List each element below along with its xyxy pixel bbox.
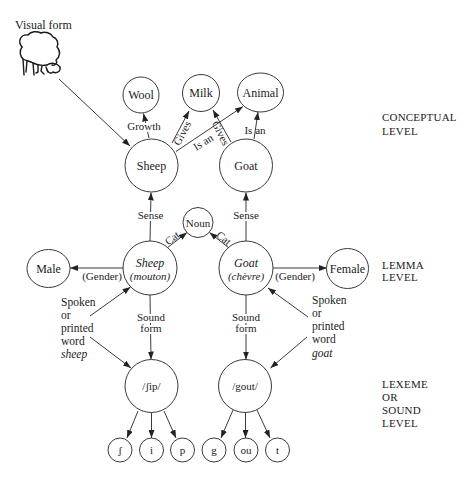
node-phoneme-t: t bbox=[266, 438, 290, 462]
word-input-sheep-line-3: printed bbox=[61, 322, 94, 335]
word-input-sheep-line-1: Spoken bbox=[61, 296, 96, 309]
node-sheep-concept-label: Sheep bbox=[137, 159, 166, 173]
level-lemma-line-1: LEMMA bbox=[382, 259, 424, 271]
lexical-network-diagram: Visual form bbox=[0, 0, 470, 481]
node-goat-lexeme-label: /gout/ bbox=[232, 380, 259, 392]
node-goat-lemma: Goat (chèvre) bbox=[219, 241, 273, 295]
node-female: Female bbox=[327, 249, 369, 289]
node-phoneme-ou-label: ou bbox=[241, 444, 253, 456]
label-growth: Growth bbox=[127, 120, 161, 132]
node-phoneme-i-label: i bbox=[150, 444, 153, 456]
node-phoneme-p: p bbox=[171, 438, 195, 462]
node-milk: Milk bbox=[183, 75, 220, 112]
word-input-sheep-line-4: word bbox=[61, 335, 85, 347]
edge-word-sheep-to-lexeme bbox=[90, 337, 131, 368]
node-sheep-lexeme-label: /ʃip/ bbox=[142, 380, 161, 392]
node-female-label: Female bbox=[330, 262, 365, 276]
level-lexeme-line-1: LEXEME bbox=[382, 378, 428, 390]
edges bbox=[59, 79, 327, 438]
node-goat-lexeme: /gout/ bbox=[219, 360, 272, 413]
node-male: Male bbox=[27, 250, 70, 288]
edge-word-sheep-to-lemma bbox=[90, 287, 131, 316]
edge-visual-to-sheep bbox=[59, 79, 130, 146]
word-input-goat-line-4: word bbox=[312, 333, 336, 345]
level-label-conceptual: CONCEPTUAL LEVEL bbox=[382, 111, 457, 137]
label-goat-is-an: Is an bbox=[244, 124, 266, 136]
level-conceptual-line-2: LEVEL bbox=[382, 125, 418, 137]
word-input-goat-line-3: printed bbox=[312, 320, 345, 333]
label-goat-form: form bbox=[235, 322, 257, 334]
node-sheep-lemma-word: Sheep bbox=[136, 256, 165, 270]
label-sheep-form: form bbox=[140, 322, 162, 334]
node-wool-label: Wool bbox=[128, 88, 154, 102]
word-input-goat-line-2: or bbox=[312, 307, 322, 319]
node-goat-lemma-word: Goat bbox=[234, 256, 259, 270]
word-input-goat-word: goat bbox=[312, 347, 333, 360]
node-sheep-lemma: Sheep (mouton) bbox=[123, 241, 177, 295]
edge-word-goat-to-lemma bbox=[268, 288, 308, 317]
visual-form-label: Visual form bbox=[15, 18, 73, 32]
label-female-gender: (Gender) bbox=[275, 270, 315, 283]
node-phoneme-sh: ʃ bbox=[108, 438, 132, 462]
label-sheep-is-an: Is an bbox=[191, 131, 216, 153]
word-input-sheep-line-2: or bbox=[61, 309, 71, 321]
level-lexeme-line-4: LEVEL bbox=[382, 417, 418, 429]
level-lemma-line-2: LEVEL bbox=[382, 271, 418, 283]
label-goat-gives: Gives bbox=[210, 119, 232, 147]
node-sheep-concept: Sheep bbox=[125, 139, 178, 192]
node-phoneme-g-label: g bbox=[211, 444, 217, 456]
label-goat-cat: Cat bbox=[214, 228, 233, 247]
edge-sheep-lexeme-phoneme-1 bbox=[127, 411, 138, 438]
label-goat-sense: Sense bbox=[233, 209, 259, 221]
node-sheep-lemma-translation: (mouton) bbox=[130, 270, 171, 283]
node-goat-lemma-translation: (chèvre) bbox=[228, 270, 265, 283]
edge-word-goat-to-lexeme bbox=[271, 337, 308, 368]
level-lexeme-line-2: OR bbox=[382, 391, 398, 403]
label-sheep-gives: Gives bbox=[171, 119, 194, 147]
node-sheep-lexeme: /ʃip/ bbox=[125, 360, 178, 413]
edge-sheep-lexeme-phoneme-3 bbox=[164, 411, 176, 438]
label-male-gender: (Gender) bbox=[82, 270, 122, 283]
level-conceptual-line-1: CONCEPTUAL bbox=[382, 111, 457, 123]
node-goat-concept: Goat bbox=[220, 139, 273, 192]
node-wool: Wool bbox=[123, 77, 159, 113]
node-goat-concept-label: Goat bbox=[234, 159, 258, 173]
level-label-lemma: LEMMA LEVEL bbox=[382, 259, 424, 283]
node-phoneme-ou: ou bbox=[234, 438, 258, 462]
level-lexeme-line-3: SOUND bbox=[382, 404, 421, 416]
word-input-sheep: Spoken or printed word sheep bbox=[61, 296, 96, 361]
level-label-lexeme: LEXEME OR SOUND LEVEL bbox=[382, 378, 428, 429]
node-milk-label: Milk bbox=[189, 86, 212, 100]
word-input-sheep-word: sheep bbox=[61, 348, 87, 361]
edge-goat-lexeme-phoneme-3 bbox=[257, 410, 270, 438]
sheep-drawing-icon bbox=[20, 32, 60, 75]
node-male-label: Male bbox=[36, 262, 61, 276]
node-phoneme-i: i bbox=[140, 438, 164, 462]
edge-goat-lexeme-phoneme-1 bbox=[221, 410, 233, 438]
node-phoneme-g: g bbox=[202, 438, 226, 462]
label-sheep-cat: Cat bbox=[162, 229, 181, 248]
node-noun: Noun bbox=[183, 208, 213, 238]
word-input-goat-line-1: Spoken bbox=[312, 294, 347, 307]
node-noun-label: Noun bbox=[186, 217, 211, 229]
label-sheep-sense: Sense bbox=[138, 209, 164, 221]
node-phoneme-p-label: p bbox=[180, 444, 186, 456]
node-animal: Animal bbox=[238, 73, 284, 112]
node-phoneme-sh-label: ʃ bbox=[117, 444, 122, 456]
word-input-goat: Spoken or printed word goat bbox=[312, 294, 347, 360]
node-phoneme-t-label: t bbox=[276, 444, 279, 456]
node-animal-label: Animal bbox=[243, 86, 280, 100]
